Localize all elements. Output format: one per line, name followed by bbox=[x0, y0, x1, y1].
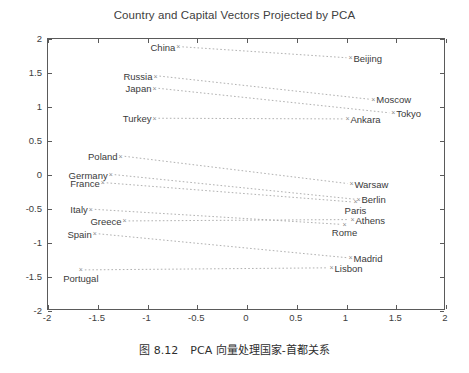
y-axis-tick bbox=[440, 73, 444, 74]
y-axis-tick-label: -1.5 bbox=[12, 271, 42, 282]
figure-container: Country and Capital Vectors Projected by… bbox=[0, 0, 469, 373]
y-axis-tick bbox=[48, 243, 52, 244]
x-axis-tick bbox=[347, 305, 348, 309]
x-axis-tick bbox=[247, 305, 248, 309]
x-axis-tick bbox=[197, 305, 198, 309]
x-axis-tick-label: -1.5 bbox=[89, 312, 105, 323]
x-axis-tick bbox=[297, 305, 298, 309]
y-axis-tick bbox=[440, 175, 444, 176]
y-axis-tick bbox=[48, 73, 52, 74]
y-axis-tick bbox=[48, 175, 52, 176]
y-axis-tick bbox=[440, 277, 444, 278]
x-axis-tick bbox=[98, 305, 99, 309]
x-axis-tick bbox=[446, 305, 447, 309]
y-axis-tick-label: -0.5 bbox=[12, 203, 42, 214]
x-axis-tick-label: 2 bbox=[442, 312, 447, 323]
y-axis-tick bbox=[48, 141, 52, 142]
x-axis-tick-label: -0.5 bbox=[188, 312, 204, 323]
x-axis-tick-label: 0 bbox=[243, 312, 248, 323]
y-axis-tick bbox=[48, 107, 52, 108]
y-axis-tick bbox=[440, 39, 444, 40]
caption-figure-number: 图 8.12 bbox=[139, 344, 178, 357]
y-axis-tick bbox=[48, 39, 52, 40]
x-axis-tick bbox=[446, 39, 447, 43]
y-axis-tick-label: 0 bbox=[12, 169, 42, 180]
x-axis-tick bbox=[247, 39, 248, 43]
y-axis-tick-label: -2 bbox=[12, 305, 42, 316]
x-axis-tick-label: 1 bbox=[343, 312, 348, 323]
x-axis-tick bbox=[48, 305, 49, 309]
x-axis-tick-label: 1.5 bbox=[389, 312, 402, 323]
y-axis-tick bbox=[48, 277, 52, 278]
y-axis-tick-label: 2 bbox=[12, 33, 42, 44]
y-axis-tick-label: 1.5 bbox=[12, 67, 42, 78]
x-axis-tick bbox=[396, 39, 397, 43]
y-axis-tick-label: 0.5 bbox=[12, 135, 42, 146]
figure-caption: 图 8.12PCA 向量处理国家-首都关系 bbox=[0, 341, 469, 357]
y-axis-tick-label: -1 bbox=[12, 237, 42, 248]
x-axis-tick-label: -1 bbox=[142, 312, 150, 323]
x-axis-tick bbox=[396, 305, 397, 309]
x-axis-tick-label: -2 bbox=[43, 312, 51, 323]
x-axis-tick bbox=[98, 39, 99, 43]
x-axis-tick bbox=[347, 39, 348, 43]
y-axis-tick bbox=[440, 141, 444, 142]
x-axis-tick bbox=[197, 39, 198, 43]
y-axis-tick bbox=[48, 209, 52, 210]
y-axis-tick bbox=[440, 107, 444, 108]
plot-area bbox=[47, 38, 445, 310]
y-axis-tick-label: 1 bbox=[12, 101, 42, 112]
y-axis-tick bbox=[440, 209, 444, 210]
y-axis-tick bbox=[440, 243, 444, 244]
caption-text: PCA 向量处理国家-首都关系 bbox=[190, 344, 329, 357]
x-axis-tick bbox=[297, 39, 298, 43]
x-axis-tick-label: 0.5 bbox=[289, 312, 302, 323]
x-axis-tick bbox=[148, 305, 149, 309]
chart-title: Country and Capital Vectors Projected by… bbox=[0, 9, 469, 21]
x-axis-tick bbox=[148, 39, 149, 43]
